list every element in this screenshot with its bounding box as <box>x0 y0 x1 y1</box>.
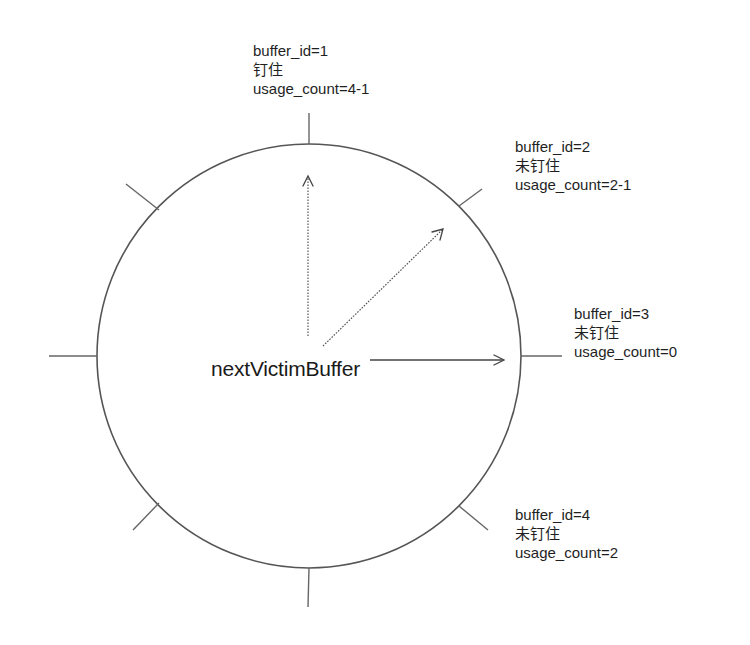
sweep-arrow-buffer-2 <box>323 229 443 346</box>
buffer-1-usage-count: usage_count=4-1 <box>253 79 369 98</box>
slot-tick-bottom-left <box>133 503 159 530</box>
buffer-4-label: buffer_id=4 未钉住 usage_count=2 <box>515 505 618 562</box>
buffer-4-usage-count: usage_count=2 <box>515 543 618 562</box>
slot-tick-top-right <box>459 189 482 206</box>
buffer-ring <box>97 144 521 568</box>
buffer-2-usage-count: usage_count=2-1 <box>515 175 631 194</box>
buffer-2-pin-state: 未钉住 <box>515 156 631 175</box>
buffer-3-pin-state: 未钉住 <box>574 323 677 342</box>
buffer-4-id: buffer_id=4 <box>515 505 618 524</box>
slot-tick-bottom-right <box>459 506 488 530</box>
next-victim-arrow <box>370 355 504 365</box>
sweep-arrow-buffer-1 <box>303 176 313 336</box>
next-victim-buffer-label: nextVictimBuffer <box>211 357 360 381</box>
buffer-1-id: buffer_id=1 <box>253 41 369 60</box>
buffer-3-id: buffer_id=3 <box>574 304 677 323</box>
slot-tick-bottom <box>308 568 309 607</box>
buffer-4-pin-state: 未钉住 <box>515 524 618 543</box>
buffer-3-label: buffer_id=3 未钉住 usage_count=0 <box>574 304 677 361</box>
buffer-2-id: buffer_id=2 <box>515 137 631 156</box>
buffer-2-label: buffer_id=2 未钉住 usage_count=2-1 <box>515 137 631 194</box>
slot-tick-top-left <box>126 184 159 210</box>
buffer-1-pin-state: 钉住 <box>253 60 369 79</box>
buffer-1-label: buffer_id=1 钉住 usage_count=4-1 <box>253 41 369 98</box>
buffer-3-usage-count: usage_count=0 <box>574 342 677 361</box>
